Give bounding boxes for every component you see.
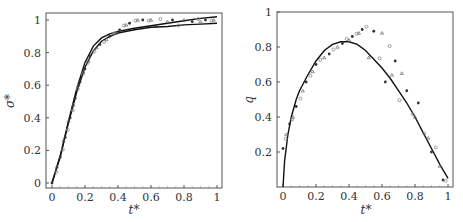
- y-tick-label: 1: [265, 6, 272, 19]
- data-point: [191, 20, 194, 23]
- data-point: [378, 57, 381, 60]
- data-point: [361, 28, 364, 31]
- model-curve: [52, 17, 217, 183]
- left-plot-ticks: 00.20.40.60.8100.20.40.60.81: [24, 14, 221, 204]
- x-tick-label: 0.4: [109, 191, 127, 204]
- data-point: [98, 43, 101, 46]
- data-point: [336, 46, 339, 49]
- right-plot-q-vs-t: 00.20.40.60.810.20.40.60.81 t* q: [242, 6, 453, 217]
- data-point: [288, 123, 291, 126]
- data-point: [372, 30, 375, 33]
- data-point: [74, 97, 77, 100]
- data-point: [155, 25, 158, 28]
- left-plot-sigma-vs-t: 00.20.40.60.8100.20.40.60.81 t* σ*: [3, 13, 222, 217]
- data-point: [427, 137, 430, 140]
- left-y-axis-label: σ*: [3, 94, 17, 108]
- y-tick-label: 0.6: [255, 76, 273, 89]
- x-tick-label: 0: [280, 190, 287, 203]
- data-point: [400, 72, 403, 75]
- data-point: [212, 19, 215, 22]
- right-plot-series: [282, 25, 448, 187]
- left-x-axis-label: t*: [129, 203, 140, 217]
- data-point: [351, 35, 354, 38]
- data-point: [64, 136, 67, 139]
- data-point: [282, 147, 285, 150]
- data-point: [79, 81, 82, 84]
- y-tick-label: 0.2: [255, 146, 273, 159]
- x-tick-label: 1: [214, 191, 221, 204]
- y-tick-label: 0.8: [24, 47, 42, 60]
- data-point: [380, 32, 383, 35]
- y-tick-label: 0.4: [255, 111, 273, 124]
- data-point: [367, 56, 370, 59]
- x-tick-label: 0.8: [406, 190, 424, 203]
- data-point: [125, 23, 128, 26]
- data-point: [299, 97, 302, 100]
- data-point: [301, 89, 304, 92]
- y-tick-label: 0.8: [255, 41, 273, 54]
- data-point: [365, 25, 368, 28]
- data-point: [89, 54, 92, 57]
- data-point: [171, 19, 174, 22]
- data-point: [118, 28, 121, 31]
- data-point: [166, 20, 169, 23]
- right-plot-frame: [277, 12, 453, 187]
- data-point: [405, 89, 408, 92]
- data-point: [390, 74, 393, 77]
- data-point: [305, 81, 308, 84]
- data-point: [204, 19, 207, 22]
- data-point: [311, 70, 314, 73]
- data-point: [59, 156, 62, 159]
- data-point: [128, 22, 131, 25]
- data-point: [430, 151, 433, 154]
- data-point: [69, 116, 72, 119]
- data-point: [51, 182, 54, 185]
- right-x-axis-label: t*: [361, 203, 372, 217]
- x-tick-label: 0.2: [76, 191, 94, 204]
- data-point: [398, 99, 401, 102]
- data-point: [357, 32, 360, 35]
- data-point: [328, 53, 331, 56]
- data-point: [309, 74, 312, 77]
- x-tick-label: 0: [49, 191, 56, 204]
- y-tick-label: 1: [34, 14, 41, 27]
- data-point: [84, 68, 87, 71]
- model-curve: [52, 23, 217, 183]
- left-plot-series: [51, 17, 217, 185]
- figure-canvas: 00.20.40.60.8100.20.40.60.81 t* σ* 00.20…: [0, 0, 463, 222]
- data-point: [315, 63, 318, 66]
- data-point: [332, 48, 335, 51]
- data-point: [149, 19, 152, 22]
- data-point: [199, 20, 202, 23]
- model-curve: [283, 42, 448, 187]
- x-tick-label: 0.8: [175, 191, 193, 204]
- data-point: [295, 105, 298, 108]
- data-point: [388, 45, 391, 48]
- data-point: [319, 59, 322, 62]
- x-tick-label: 0.4: [340, 190, 358, 203]
- data-point: [417, 102, 420, 105]
- x-tick-label: 0.6: [373, 190, 391, 203]
- data-point: [384, 81, 387, 84]
- data-point: [141, 19, 144, 22]
- left-plot-frame: [46, 13, 222, 188]
- x-tick-label: 0.2: [307, 190, 325, 203]
- x-tick-label: 0.6: [142, 191, 160, 204]
- right-y-axis-label: q: [242, 96, 256, 104]
- data-point: [136, 19, 139, 22]
- data-point: [159, 18, 162, 21]
- data-point: [341, 42, 344, 45]
- data-point: [444, 179, 447, 182]
- y-tick-label: 0.2: [24, 144, 42, 157]
- data-point: [323, 56, 326, 59]
- x-tick-label: 1: [445, 190, 452, 203]
- y-tick-label: 0.4: [24, 112, 42, 125]
- y-tick-label: 0: [34, 177, 41, 190]
- y-tick-label: 0.6: [24, 79, 42, 92]
- data-point: [108, 35, 111, 38]
- data-point: [394, 60, 397, 63]
- data-point: [434, 146, 437, 149]
